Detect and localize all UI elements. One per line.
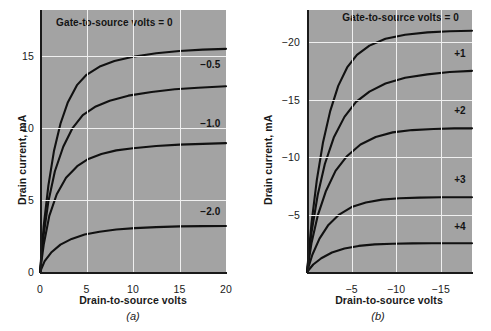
curve-label: +2 [454,105,466,116]
curve-plus2 [307,128,472,272]
y-tick-label: 5 [28,194,34,206]
y-tick-label: −20 [282,36,300,48]
x-tick-label: 20 [220,283,232,295]
y-tick-label: 15 [22,50,34,62]
x-axis-title-a: Drain-to-source volts [79,294,187,306]
figure-caption-b: (b) [371,310,384,322]
y-tick-label: −15 [282,94,300,106]
curve-label: Gate-to-source volts = 0 [56,17,173,28]
gridline-vertical [441,10,442,272]
gridline-horizontal [307,42,472,43]
gridline-vertical [396,10,397,272]
y-axis-line [40,10,42,274]
x-axis-title-b: Drain-to-source volts [335,294,443,306]
chart-panel-a: Gate-to-source volts = 0−0.5−1.0−2.0 051… [0,0,246,331]
curve-label: +4 [454,221,466,232]
gridline-vertical [352,10,353,272]
gridline-horizontal [307,100,472,101]
gridline-vertical [87,10,88,272]
y-tick-label: −10 [282,151,300,163]
x-axis-line [307,272,473,274]
y-axis-title-b: Drain current, mA [262,115,274,205]
y-axis-line [307,10,309,274]
gridline-vertical [133,10,134,272]
x-tick-label: 0 [37,283,43,295]
gridline-horizontal [307,215,472,216]
curve-label: −2.0 [200,206,220,217]
gridline-horizontal [307,157,472,158]
curve-plus3 [307,197,472,272]
gridline-vertical [180,10,181,272]
curve-label: +1 [454,48,466,59]
curve-0 [307,31,472,272]
curve-plus1 [307,71,472,272]
y-tick-label: −5 [288,209,300,221]
figure-caption-a: (a) [126,310,139,322]
curves-layer-a [0,0,246,331]
x-axis-line [40,272,227,274]
curve-plus4 [307,243,472,272]
y-axis-title-a: Drain current, mA [16,115,28,205]
y-tick-label: 0 [28,266,34,278]
curve-label: −0.5 [200,59,220,70]
chart-panel-b: Gate-to-source volts = 0+1+2+3+4 −5−10−1… [246,0,491,331]
curve-label: +3 [454,174,466,185]
